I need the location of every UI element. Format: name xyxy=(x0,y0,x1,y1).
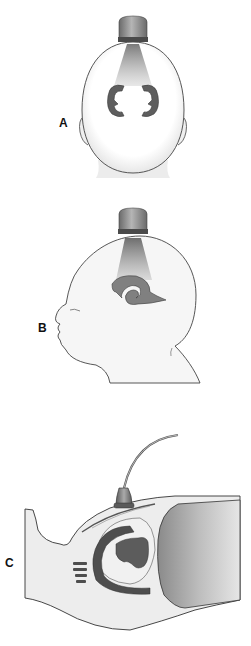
ultrasound-probe xyxy=(118,16,148,42)
probe-cable xyxy=(124,435,178,488)
dark-mass xyxy=(158,500,240,608)
panel-label-c: C xyxy=(5,557,14,569)
head-back-illustration xyxy=(0,0,251,200)
panel-a: A xyxy=(0,0,251,200)
panel-label-a: A xyxy=(59,117,68,129)
panel-label-b: B xyxy=(38,322,47,334)
head-profile-illustration xyxy=(0,200,251,400)
cross-section-illustration xyxy=(0,400,251,646)
panel-c: C xyxy=(0,400,251,646)
ultrasound-probe xyxy=(114,488,134,508)
panel-b: B xyxy=(0,200,251,400)
ultrasound-probe xyxy=(118,208,148,234)
